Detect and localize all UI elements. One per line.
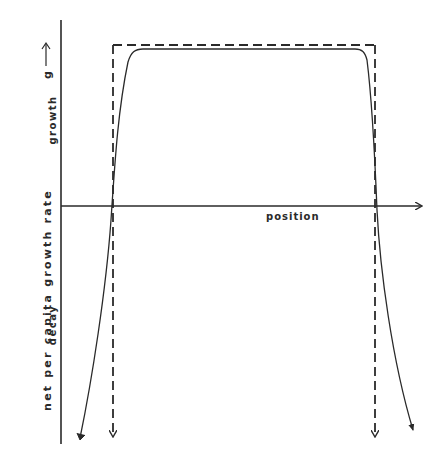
y-axis-symbol: g (41, 71, 54, 79)
y-axis-label: net per capita growth rate (41, 189, 54, 411)
solid-growth-curve (80, 49, 413, 438)
decay-label: decay (47, 305, 58, 345)
growth-rate-diagram: net per capita growth rate g growth deca… (0, 0, 446, 459)
solid-curve-left-arrow-icon (77, 433, 85, 440)
dashed-step-curve (113, 45, 375, 436)
x-axis-label: position (266, 211, 320, 222)
growth-label: growth (47, 95, 58, 144)
y-direction-arrow-icon (42, 43, 50, 66)
